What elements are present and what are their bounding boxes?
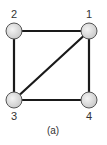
figure-caption: (a) [38, 126, 68, 136]
node-label-4: 4 [82, 111, 96, 122]
edges [14, 31, 89, 100]
node-4 [81, 92, 97, 108]
node-3 [6, 92, 22, 108]
graph-canvas [0, 0, 107, 145]
node-label-1: 1 [82, 9, 96, 20]
edge-1-3 [14, 31, 89, 100]
node-label-2: 2 [7, 9, 21, 20]
node-2 [6, 23, 22, 39]
node-label-3: 3 [7, 111, 21, 122]
node-1 [81, 23, 97, 39]
